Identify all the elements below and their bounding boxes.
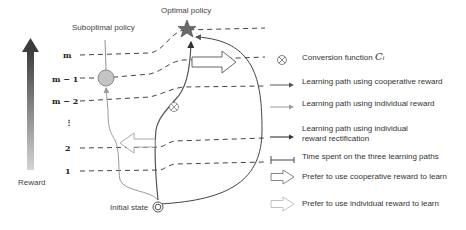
legend-item-cooperative-preference: Prefer to use cooperative reward to lear… <box>270 169 447 185</box>
legend-label: Time spent on the three learning paths <box>302 152 439 162</box>
time-span-icon <box>270 152 298 164</box>
legend-label: Prefer to use cooperative reward to lear… <box>302 172 447 182</box>
optimal-policy-label: Optimal policy <box>161 6 211 15</box>
level-1: 1 <box>65 166 71 176</box>
individual-path-arrow-icon <box>270 99 298 111</box>
level-ellipsis: ⋮ <box>65 117 73 127</box>
level-m-minus-1: m − 1 <box>52 74 78 84</box>
legend-item-individual-preference: Prefer to use individual reward to learn <box>270 196 439 212</box>
optimal-policy-star-icon <box>178 20 196 37</box>
learning-path-diagram: Reward m m − 1 m − 2 ⋮ 2 1 Suboptimal po… <box>0 0 270 230</box>
legend-label: Prefer to use individual reward to learn <box>302 199 439 209</box>
individual-preference-arrow <box>120 133 155 153</box>
legend-item-individual-path: Learning path using individual reward <box>270 99 435 111</box>
legend-label: Learning path using individual reward <box>302 99 435 109</box>
individual-preference-arrow-icon <box>270 196 298 212</box>
suboptimal-policy-label: Suboptimal policy <box>72 23 135 32</box>
legend-item-conversion: Conversion function Cᵢ <box>270 52 385 64</box>
cooperative-preference-arrow-icon <box>270 169 298 185</box>
reward-axis-arrow <box>22 38 39 170</box>
cooperative-path-arrow-icon <box>270 77 298 89</box>
level-m-minus-2: m − 2 <box>52 96 78 106</box>
legend-label: Learning path using individual reward re… <box>302 124 422 144</box>
suboptimal-callout-line <box>105 40 106 70</box>
legend-math: Cᵢ <box>375 51 385 62</box>
rectification-path-arrow-icon <box>270 129 298 141</box>
legend-label: Conversion function <box>302 53 375 62</box>
level-m: m <box>63 50 72 60</box>
reward-axis-label: Reward <box>18 178 46 187</box>
cooperative-reward-path <box>155 42 191 200</box>
initial-state-node <box>153 202 163 212</box>
cooperative-preference-arrow <box>192 51 236 73</box>
level-2: 2 <box>65 143 71 153</box>
conversion-function-icon <box>270 52 298 64</box>
legend-label: Learning path using cooperative reward <box>302 77 443 87</box>
legend-item-cooperative-path: Learning path using cooperative reward <box>270 77 443 89</box>
suboptimal-policy-node <box>98 70 114 86</box>
conversion-function-icon <box>170 103 179 112</box>
initial-state-label: Initial state <box>110 203 149 212</box>
legend-item-time-span: Time spent on the three learning paths <box>270 152 439 164</box>
legend: Conversion function Cᵢ Learning path usi… <box>270 0 466 230</box>
legend-item-rectification-path: Learning path using individual reward re… <box>270 124 422 144</box>
